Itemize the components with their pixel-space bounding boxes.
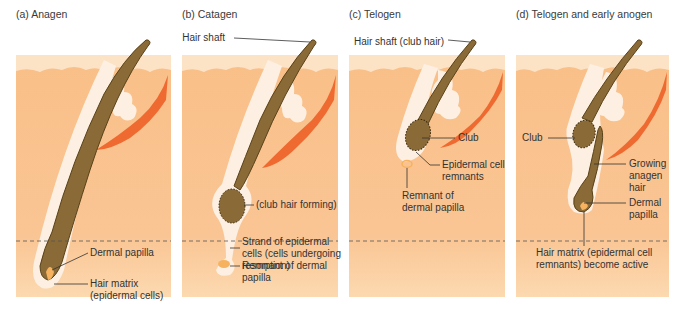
club-hair — [219, 189, 245, 223]
label-club: Club — [458, 132, 479, 144]
label-dermal-papilla: Dermal papilla — [90, 247, 154, 259]
label-hair-shaft: Hair shaft — [182, 32, 225, 44]
dermal-papilla-remnant — [218, 260, 230, 268]
label-growing-anagen-hair: Growing anagen hair — [629, 158, 666, 194]
label-remnant-of-dermal-papilla: Remnant of dermal papilla — [402, 190, 464, 214]
label-hair-matrix-active: Hair matrix (epidermal cell remnants) be… — [536, 247, 652, 271]
label-remnant-dermal-papilla: Remnant of dermal papilla — [242, 260, 327, 284]
label-club-hair-forming: (club hair forming) — [256, 199, 337, 211]
leader-line — [448, 40, 470, 42]
label-dermal-papilla: Dermal papilla — [629, 197, 661, 221]
label-club: Club — [522, 132, 543, 144]
label-epidermal-cell-remnants: Epidermal cell remnants — [442, 159, 505, 183]
label-hair-matrix: Hair matrix (epidermal cells) — [90, 278, 163, 302]
leader-line — [234, 38, 310, 42]
label-hair-shaft-club-hair: Hair shaft (club hair) — [354, 36, 444, 48]
